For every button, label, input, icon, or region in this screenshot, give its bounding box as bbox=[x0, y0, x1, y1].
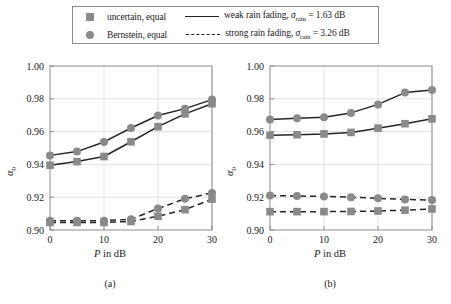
circle-marker-icon bbox=[46, 151, 54, 159]
x-tick-label: 20 bbox=[153, 234, 163, 245]
sigma-subscript-strong: rain bbox=[300, 33, 310, 41]
sigma-subscript-weak: rain bbox=[295, 15, 305, 23]
square-marker-icon bbox=[73, 13, 107, 21]
legend-row-1: uncertain, equal weak rain fading, σrain… bbox=[73, 7, 378, 26]
dashed-line-icon bbox=[181, 34, 225, 35]
y-axis-label-a-sub: 0 bbox=[10, 167, 18, 171]
square-marker-icon bbox=[374, 207, 382, 215]
square-marker-icon bbox=[293, 131, 301, 139]
chart-panel-b: 0.900.920.940.960.981.000102030 α0 P in … bbox=[220, 56, 440, 304]
circle-marker-icon bbox=[293, 114, 301, 122]
legend-weak-post: = 1.63 dB bbox=[306, 10, 345, 20]
circle-marker-icon bbox=[347, 109, 355, 117]
square-marker-icon bbox=[181, 110, 189, 118]
square-marker-icon bbox=[428, 205, 436, 213]
y-tick-label: 0.94 bbox=[247, 159, 265, 170]
y-axis-label-b-sub: 0 bbox=[230, 167, 238, 171]
square-marker-icon bbox=[401, 120, 409, 128]
x-tick-label: 0 bbox=[268, 234, 273, 245]
square-marker-icon bbox=[46, 219, 54, 227]
x-tick-label: 30 bbox=[207, 234, 217, 245]
y-tick-label: 1.00 bbox=[27, 61, 45, 72]
x-tick-label: 0 bbox=[48, 234, 53, 245]
x-tick-label: 20 bbox=[373, 234, 383, 245]
x-tick-label: 10 bbox=[99, 234, 109, 245]
square-marker-icon bbox=[208, 195, 216, 203]
chart-panel-a: 0.900.920.940.960.981.000102030 α0 P in … bbox=[0, 56, 220, 304]
circle-marker-icon bbox=[127, 124, 135, 132]
x-axis-label-b-rest: in dB bbox=[320, 248, 346, 259]
legend-label-strong-rain-fading: strong rain fading, σrain = 3.26 dB bbox=[225, 28, 350, 41]
y-tick-label: 0.98 bbox=[27, 93, 45, 104]
legend-weak-pre: weak rain fading, bbox=[224, 10, 291, 20]
x-axis-label-a: P in dB bbox=[0, 248, 220, 259]
circle-marker-icon bbox=[293, 192, 301, 200]
circle-marker-icon bbox=[100, 138, 108, 146]
square-marker-icon bbox=[46, 161, 54, 169]
circle-marker-icon bbox=[401, 195, 409, 203]
y-tick-label: 1.00 bbox=[247, 61, 265, 72]
y-axis-label-b: α0 bbox=[224, 167, 238, 176]
square-marker-icon bbox=[127, 138, 135, 146]
square-marker-icon bbox=[347, 208, 355, 216]
square-marker-icon bbox=[73, 158, 81, 166]
square-marker-icon bbox=[266, 131, 274, 139]
y-tick-label: 0.94 bbox=[27, 159, 45, 170]
square-marker-icon bbox=[100, 219, 108, 227]
circle-marker-icon bbox=[154, 205, 162, 213]
y-axis-label-a-alpha: α bbox=[4, 170, 15, 176]
legend: uncertain, equal weak rain fading, σrain… bbox=[72, 6, 379, 44]
circle-marker-icon bbox=[181, 195, 189, 203]
panel-caption-a: (a) bbox=[0, 278, 220, 289]
y-axis-label-b-alpha: α bbox=[224, 170, 235, 176]
plot-area-a: 0.900.920.940.960.981.000102030 bbox=[0, 56, 220, 256]
square-marker-icon bbox=[181, 206, 189, 214]
square-marker-icon bbox=[73, 219, 81, 227]
circle-marker-icon bbox=[428, 196, 436, 204]
square-marker-icon bbox=[266, 208, 274, 216]
circle-marker-icon bbox=[374, 100, 382, 108]
square-marker-icon bbox=[127, 218, 135, 226]
circle-marker-icon bbox=[401, 89, 409, 97]
circle-marker-icon bbox=[73, 31, 107, 39]
circle-marker-icon bbox=[320, 192, 328, 200]
legend-label-uncertain-equal: uncertain, equal bbox=[107, 12, 166, 22]
square-marker-icon bbox=[154, 123, 162, 131]
y-tick-label: 0.96 bbox=[27, 126, 45, 137]
square-marker-icon bbox=[320, 130, 328, 138]
legend-label-weak-rain-fading: weak rain fading, σrain = 1.63 dB bbox=[224, 10, 345, 23]
circle-marker-icon bbox=[73, 148, 81, 156]
x-tick-label: 30 bbox=[427, 234, 437, 245]
circle-marker-icon bbox=[266, 192, 274, 200]
circle-marker-icon bbox=[154, 112, 162, 120]
x-axis-label-b: P in dB bbox=[220, 248, 440, 259]
y-tick-label: 0.96 bbox=[247, 126, 265, 137]
legend-strong-pre: strong rain fading, bbox=[225, 28, 295, 38]
circle-marker-icon bbox=[266, 115, 274, 123]
square-marker-icon bbox=[374, 124, 382, 132]
y-tick-label: 0.92 bbox=[27, 192, 45, 203]
legend-row-2: Bernstein, equal strong rain fading, σra… bbox=[73, 25, 378, 44]
y-tick-label: 0.98 bbox=[247, 93, 265, 104]
solid-line-icon bbox=[180, 16, 224, 17]
plot-area-b: 0.900.920.940.960.981.000102030 bbox=[220, 56, 440, 256]
circle-marker-icon bbox=[320, 113, 328, 121]
circle-marker-icon bbox=[347, 193, 355, 201]
y-tick-label: 0.92 bbox=[247, 192, 265, 203]
figure-root: uncertain, equal weak rain fading, σrain… bbox=[0, 0, 451, 304]
square-marker-icon bbox=[293, 208, 301, 216]
square-marker-icon bbox=[100, 153, 108, 161]
legend-strong-post: = 3.26 dB bbox=[311, 28, 350, 38]
x-tick-label: 10 bbox=[319, 234, 329, 245]
y-tick-label: 0.90 bbox=[247, 225, 265, 236]
x-axis-label-a-rest: in dB bbox=[100, 248, 126, 259]
square-marker-icon bbox=[154, 212, 162, 220]
y-tick-label: 0.90 bbox=[27, 225, 45, 236]
square-marker-icon bbox=[401, 206, 409, 214]
square-marker-icon bbox=[320, 208, 328, 216]
circle-marker-icon bbox=[374, 194, 382, 202]
legend-label-bernstein-equal: Bernstein, equal bbox=[107, 30, 167, 40]
square-marker-icon bbox=[428, 115, 436, 123]
panel-caption-b: (b) bbox=[220, 278, 440, 289]
square-marker-icon bbox=[347, 129, 355, 137]
